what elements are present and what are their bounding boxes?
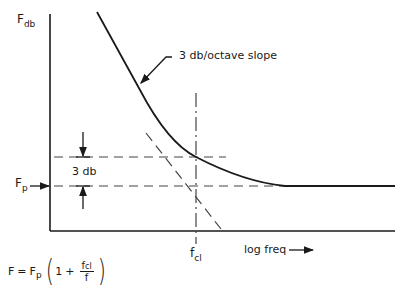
slope-asymptote	[146, 133, 221, 229]
formula-frac-den: f	[85, 272, 89, 283]
formula-eq: =	[17, 265, 26, 278]
fp-label: Fp	[15, 177, 28, 189]
formula-frac-num-sub: cl	[85, 262, 92, 271]
formula-fraction: fcl f	[80, 260, 94, 283]
noise-figure-formula: F = Fp ( 1 + fcl f )	[8, 256, 107, 286]
x-axis-label: log freq	[244, 244, 286, 255]
formula-paren-open: (	[45, 256, 53, 286]
formula-paren-close: )	[97, 256, 105, 286]
noise-figure-curve	[97, 12, 395, 186]
y-axis-label: Fdb	[17, 13, 35, 25]
formula-lhs: F	[8, 265, 14, 278]
slope-leader-line	[141, 57, 172, 83]
formula-frac-num: fcl	[80, 260, 94, 272]
y-axis-label-main: F	[17, 12, 24, 26]
fcl-label: fcl	[190, 247, 202, 259]
gap-label: 3 db	[72, 166, 96, 177]
slope-label: 3 db/octave slope	[179, 50, 277, 61]
y-axis-label-sub: db	[24, 19, 35, 29]
noise-figure-diagram	[0, 0, 406, 298]
formula-plus: +	[65, 265, 74, 278]
formula-one: 1	[55, 265, 62, 278]
fp-label-main: F	[15, 176, 22, 190]
formula-rhs-sub: p	[36, 270, 42, 280]
fp-label-sub: p	[22, 183, 28, 193]
fcl-label-sub: cl	[194, 253, 201, 263]
